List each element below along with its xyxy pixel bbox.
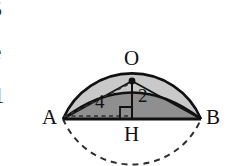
label-point-B: B — [206, 107, 220, 128]
label-point-H: H — [124, 124, 139, 145]
geometry-figure: 5 e 1 O A B H — [0, 0, 230, 166]
center-point-O-dot — [129, 78, 136, 85]
label-point-O: O — [124, 48, 139, 69]
label-point-A: A — [42, 107, 57, 128]
label-measure-slant-4: 4 — [95, 92, 105, 111]
geometry-canvas — [0, 0, 230, 166]
label-measure-height-2: 2 — [138, 86, 148, 105]
